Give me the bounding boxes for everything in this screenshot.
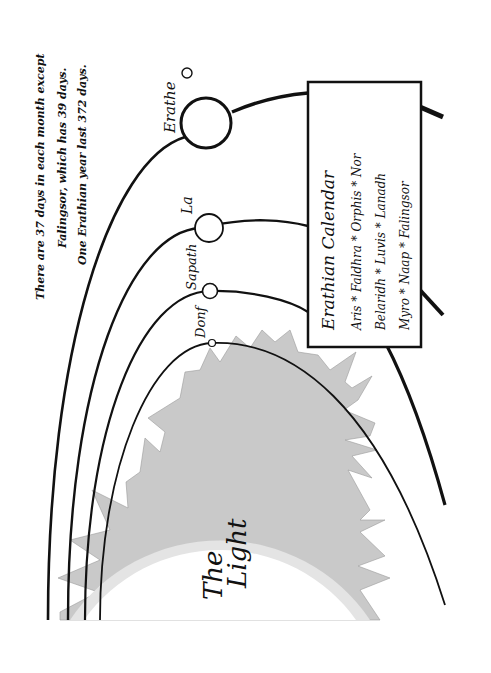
calendar-box: Erathian Calendar Aris * Faldhra * Orphi… <box>308 82 421 347</box>
label-erathe: Erathe <box>161 81 179 134</box>
notes: There are 37 days in each month except F… <box>34 54 89 301</box>
planet-donf <box>209 340 216 347</box>
orbit-erathe-mid <box>232 93 308 112</box>
label-sapath: Sapath <box>184 244 199 290</box>
calendar-row-1: Aris * Faldhra * Orphis * Nor <box>350 152 364 331</box>
label-la: La <box>179 196 195 215</box>
moon-erathe <box>182 68 192 78</box>
calendar-row-3: Myro * Naap * Falingsor <box>398 180 412 331</box>
note-line-2: Falingsor, which has 39 days. <box>56 68 69 249</box>
orbit-la-right <box>420 290 443 315</box>
label-donf: Donf <box>193 304 208 339</box>
sun-label-light: Light <box>222 518 252 589</box>
planet-la <box>195 214 223 242</box>
sun: The Light <box>58 330 390 620</box>
orbit-erathe-right <box>420 107 443 117</box>
note-line-1: There are 37 days in each month except <box>34 54 47 301</box>
solar-system-diagram: The Light Donf Sapath La Erathe There ar… <box>0 0 491 673</box>
planet-erathe <box>181 98 231 148</box>
note-line-3: One Erathian year last 372 days. <box>76 64 89 265</box>
planet-sapath <box>203 284 218 299</box>
calendar-row-2: Belaridh * Luvis * Lanadh <box>374 173 388 331</box>
calendar-title: Erathian Calendar <box>318 170 338 331</box>
